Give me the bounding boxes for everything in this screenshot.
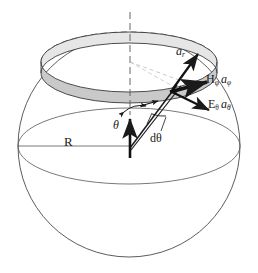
h-phi-sub: φ: [215, 78, 219, 87]
label-h-phi: Hφaφ: [206, 72, 231, 87]
label-theta: θ: [113, 118, 119, 133]
label-R: R: [64, 134, 73, 150]
label-e-theta: Eθaθ: [208, 97, 231, 112]
label-a-r: ar: [176, 44, 185, 59]
h-phi-vecsub: φ: [227, 78, 231, 87]
sphere-diagram-svg: [0, 0, 258, 273]
a-r-sub: r: [182, 50, 185, 59]
figure-canvas: ar Hφaφ Eθaθ θ dθ R: [0, 0, 258, 273]
e-theta-vecsub: θ: [227, 103, 231, 112]
label-d-theta: dθ: [150, 131, 162, 146]
e-theta-sub: θ: [215, 103, 219, 112]
h-phi-base: H: [206, 72, 215, 86]
